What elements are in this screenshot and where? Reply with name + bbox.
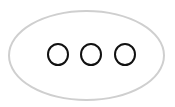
more-options-label: More options [10, 12, 11, 13]
dot-icon [47, 43, 69, 66]
dot-icon [80, 43, 102, 66]
dot-icon [114, 43, 136, 66]
